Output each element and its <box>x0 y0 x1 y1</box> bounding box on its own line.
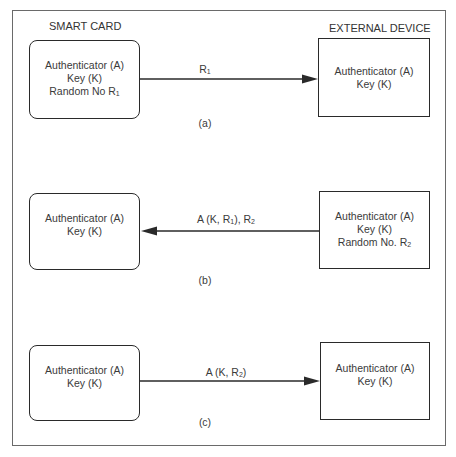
arrowhead-left-icon <box>141 227 157 236</box>
arrow-a-card-to-device <box>140 75 318 84</box>
arrowhead-right-icon <box>304 377 320 386</box>
arrowhead-right-icon <box>302 75 318 84</box>
arrow-c-card-to-device <box>140 377 320 386</box>
message-arrows <box>0 0 456 457</box>
arrow-b-device-to-card <box>141 227 319 236</box>
